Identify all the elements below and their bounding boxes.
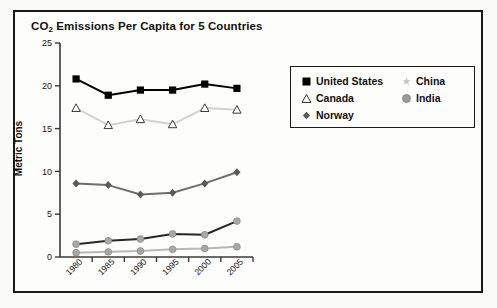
y-tick-labels: 0510152025 bbox=[42, 38, 52, 262]
legend-column-right: China India bbox=[399, 73, 445, 107]
series-line-india bbox=[76, 247, 237, 253]
y-tick-label: 5 bbox=[47, 209, 52, 219]
x-tick-label: 1990 bbox=[128, 256, 149, 277]
data-point-india-2005 bbox=[234, 243, 241, 250]
legend-label-china: China bbox=[416, 75, 445, 87]
data-point-united-states-1980 bbox=[72, 75, 79, 82]
data-point-china-1985 bbox=[105, 237, 112, 244]
x-tick-label: 2000 bbox=[192, 256, 213, 277]
data-point-norway-1985 bbox=[105, 181, 112, 189]
data-point-china-1995 bbox=[169, 230, 176, 237]
y-tick-label: 20 bbox=[42, 81, 52, 91]
data-point-norway-2005 bbox=[233, 168, 240, 176]
series-line-united-states bbox=[76, 79, 237, 95]
chart-legend: United States Canada Norway China bbox=[290, 66, 475, 128]
data-point-united-states-2005 bbox=[233, 85, 240, 92]
y-tick-label: 10 bbox=[42, 167, 52, 177]
data-point-india-1985 bbox=[105, 248, 112, 255]
filled-diamond-icon bbox=[299, 108, 313, 122]
series-lines bbox=[76, 79, 237, 253]
legend-item-canada[interactable]: Canada bbox=[299, 90, 383, 106]
screenshot-page: CO2 Emissions Per Capita for 5 Countries… bbox=[0, 0, 497, 308]
data-point-norway-1980 bbox=[72, 179, 79, 187]
filled-circle-icon bbox=[399, 91, 413, 105]
legend-item-united-states[interactable]: United States bbox=[299, 73, 383, 89]
x-tick-labels: 198019851990199520002005 bbox=[64, 256, 246, 277]
open-triangle-icon bbox=[299, 91, 313, 105]
filled-square-icon bbox=[299, 74, 313, 88]
legend-item-india[interactable]: India bbox=[399, 90, 445, 106]
chart-plot: 0510152025 198019851990199520002005 bbox=[13, 10, 483, 293]
star-icon bbox=[399, 74, 413, 88]
legend-item-norway[interactable]: Norway bbox=[299, 107, 383, 123]
data-point-china-1980 bbox=[73, 241, 80, 248]
y-tick-label: 15 bbox=[42, 124, 52, 134]
x-tick-label: 1980 bbox=[64, 256, 85, 277]
data-point-canada-1980 bbox=[72, 104, 80, 112]
legend-item-china[interactable]: China bbox=[399, 73, 445, 89]
data-point-india-1995 bbox=[169, 246, 176, 253]
data-point-china-2005 bbox=[234, 218, 241, 225]
data-point-norway-2000 bbox=[201, 179, 208, 187]
data-point-norway-1995 bbox=[169, 189, 176, 197]
legend-label-india: India bbox=[416, 92, 441, 104]
series-line-norway bbox=[76, 172, 237, 194]
axes bbox=[55, 43, 253, 262]
x-tick-label: 1985 bbox=[96, 256, 117, 277]
series-line-canada bbox=[76, 108, 237, 125]
legend-label-united-states: United States bbox=[316, 75, 383, 87]
data-point-united-states-1990 bbox=[137, 86, 144, 93]
legend-column-left: United States Canada Norway bbox=[299, 73, 383, 124]
y-tick-label: 0 bbox=[47, 252, 52, 262]
x-tick-label: 2005 bbox=[224, 256, 245, 277]
data-point-india-1990 bbox=[137, 248, 144, 255]
y-tick-label: 25 bbox=[42, 38, 52, 48]
data-point-united-states-1985 bbox=[105, 92, 112, 99]
legend-label-norway: Norway bbox=[316, 109, 354, 121]
data-point-united-states-1995 bbox=[169, 86, 176, 93]
data-point-india-2000 bbox=[201, 245, 208, 252]
data-point-china-1990 bbox=[137, 236, 144, 243]
series-line-china bbox=[76, 221, 237, 244]
data-point-india-1980 bbox=[73, 249, 80, 256]
legend-label-canada: Canada bbox=[316, 92, 354, 104]
data-point-united-states-2000 bbox=[201, 80, 208, 87]
data-point-china-2000 bbox=[201, 231, 208, 238]
x-tick-label: 1995 bbox=[160, 256, 181, 277]
data-point-norway-1990 bbox=[137, 191, 144, 199]
